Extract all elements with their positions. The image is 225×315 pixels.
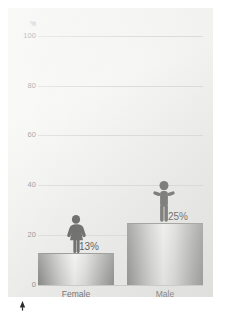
bar-female[interactable] [38, 253, 114, 286]
gridline-60 [38, 135, 203, 136]
category-label-female: Female [38, 289, 114, 299]
y-tick-label-60: 60 [16, 130, 36, 139]
gridline-40 [38, 185, 203, 186]
x-axis-line [38, 285, 203, 286]
male-figure-icon [150, 180, 178, 224]
chart-panel: % 100 80 60 40 20 0 13% 25% Female [8, 8, 213, 297]
female-figure-icon [62, 214, 90, 254]
bar-male[interactable] [127, 223, 203, 286]
y-axis-unit-label: % [16, 20, 36, 28]
chart-figure: % 100 80 60 40 20 0 13% 25% Female [0, 0, 225, 315]
y-tick-label-40: 40 [16, 180, 36, 189]
up-triangle-icon [19, 301, 26, 311]
y-tick-label-20: 20 [16, 230, 36, 239]
y-tick-label-100: 100 [16, 31, 36, 40]
gridline-80 [38, 86, 203, 87]
y-tick-label-80: 80 [16, 81, 36, 90]
category-label-male: Male [127, 289, 203, 299]
y-tick-label-0: 0 [16, 280, 36, 289]
gridline-100 [38, 36, 203, 37]
plot-area: % 100 80 60 40 20 0 13% 25% Female [16, 8, 213, 297]
